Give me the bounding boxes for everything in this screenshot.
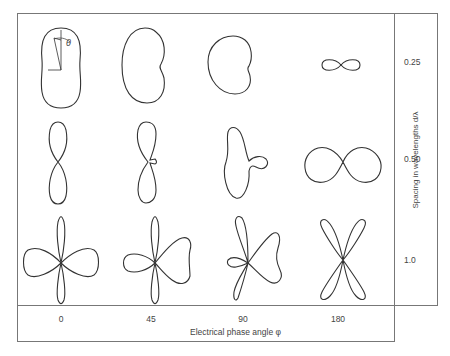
y-tick-1.0: 1.0 <box>404 255 416 265</box>
pattern-0.50-45 <box>137 122 156 203</box>
theta-annotation: θ <box>66 38 71 48</box>
y-axis-title: Spacing in wavelengths d/λ <box>411 112 420 209</box>
x-axis-title: Electrical phase angle φ <box>190 327 281 337</box>
pattern-0.25-180 <box>322 60 360 71</box>
pattern-0.50-0 <box>49 122 66 204</box>
pattern-0.50-180 <box>305 148 381 183</box>
pattern-0.25-90 <box>208 36 251 94</box>
pattern-1.0-0 <box>24 217 99 304</box>
pattern-1.0-45 <box>124 217 191 304</box>
pattern-0.25-45 <box>122 28 164 103</box>
x-tick-0: 0 <box>59 314 64 324</box>
pattern-0.25-0 <box>41 28 80 108</box>
x-tick-90: 90 <box>238 314 247 324</box>
pattern-0.50-90 <box>224 128 267 199</box>
x-tick-180: 180 <box>331 314 345 324</box>
pattern-1.0-180 <box>321 220 366 300</box>
x-tick-45: 45 <box>146 314 155 324</box>
radiation-patterns <box>0 0 450 356</box>
pattern-1.0-90 <box>227 216 281 300</box>
y-tick-0.25: 0.25 <box>404 57 421 67</box>
